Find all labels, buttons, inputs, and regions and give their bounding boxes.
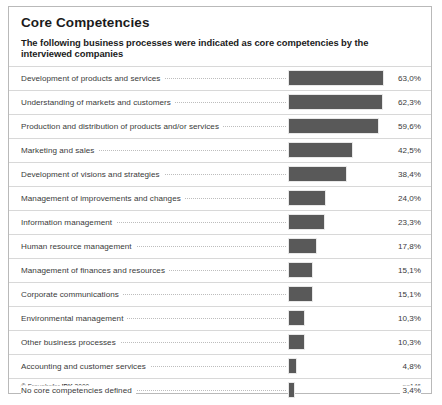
bar-row: Other business processes10,3% (9, 330, 431, 354)
bar (288, 214, 325, 230)
bar (288, 118, 379, 134)
bar-track (288, 234, 388, 258)
value-label: 10,3% (395, 338, 421, 347)
bar-rows: Development of products and services63,0… (9, 66, 431, 402)
category-label: Information management (21, 218, 116, 227)
value-label: 62,3% (395, 98, 421, 107)
bar-track (288, 66, 388, 90)
category-label: Development of visions and strategies (21, 170, 164, 179)
category-label: Development of products and services (21, 74, 164, 83)
bar-row: Management of improvements and changes24… (9, 186, 431, 210)
chart-subtitle: The following business processes were in… (9, 31, 431, 60)
category-label: Other business processes (21, 338, 120, 347)
category-label: Production and distribution of products … (21, 122, 223, 131)
bar-row: Production and distribution of products … (9, 114, 431, 138)
chart-container: Core Competencies The following business… (8, 6, 432, 394)
bar-row: Management of finances and resources15,1… (9, 258, 431, 282)
bar (288, 358, 297, 374)
bar (288, 70, 384, 86)
bar-track (288, 90, 388, 114)
bar-row: Human resource management17,8% (9, 234, 431, 258)
bar-row: Marketing and sales42,5% (9, 138, 431, 162)
bar (288, 238, 317, 254)
bar-row: Understanding of markets and customers62… (9, 90, 431, 114)
category-label: Corporate communications (21, 290, 123, 299)
value-label: 23,3% (395, 218, 421, 227)
value-label: 17,8% (395, 242, 421, 251)
value-label: 10,3% (395, 314, 421, 323)
category-label: No core competencies defined (21, 386, 136, 395)
bar-row: Information management23,3% (9, 210, 431, 234)
bar-track (288, 210, 388, 234)
bar-row: Accounting and customer services4,8% (9, 354, 431, 378)
bar-track (288, 114, 388, 138)
bar (288, 334, 305, 350)
bar-track (288, 138, 388, 162)
value-label: 63,0% (395, 74, 421, 83)
bar (288, 94, 383, 110)
bar (288, 310, 305, 326)
bar-row: Development of visions and strategies38,… (9, 162, 431, 186)
category-label: Management of finances and resources (21, 266, 169, 275)
category-label: Marketing and sales (21, 146, 98, 155)
bar (288, 286, 313, 302)
value-label: 24,0% (395, 194, 421, 203)
bar-track (288, 330, 388, 354)
bar (288, 382, 295, 398)
value-label: 15,1% (395, 266, 421, 275)
value-label: 42,5% (395, 146, 421, 155)
bar-track (288, 378, 388, 402)
value-label: 3,4% (400, 386, 421, 395)
category-label: Accounting and customer services (21, 362, 150, 371)
category-label: Management of improvements and changes (21, 194, 185, 203)
bar-track (288, 354, 388, 378)
chart-title: Core Competencies (9, 7, 431, 31)
bar-track (288, 306, 388, 330)
category-label: Human resource management (21, 242, 136, 251)
bar-track (288, 258, 388, 282)
value-label: 59,6% (395, 122, 421, 131)
value-label: 4,8% (400, 362, 421, 371)
bar (288, 262, 313, 278)
bar-row: Environmental management10,3% (9, 306, 431, 330)
bar (288, 142, 353, 158)
category-label: Understanding of markets and customers (21, 98, 175, 107)
value-label: 15,1% (395, 290, 421, 299)
bar-track (288, 282, 388, 306)
bar-row: Development of products and services63,0… (9, 66, 431, 90)
bar (288, 190, 326, 206)
category-label: Environmental management (21, 314, 127, 323)
bar-track (288, 162, 388, 186)
value-label: 38,4% (395, 170, 421, 179)
bar-track (288, 186, 388, 210)
bar (288, 166, 347, 182)
bar-row: Corporate communications15,1% (9, 282, 431, 306)
